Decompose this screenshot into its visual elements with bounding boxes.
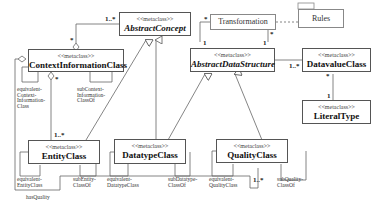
class-name: AbstractDataStructure	[191, 59, 274, 70]
class-literal-type[interactable]: <<metaclass>> LiteralType	[302, 100, 371, 124]
mult-ac-context-top: 1..*	[105, 15, 116, 23]
class-name: DatavalueClass	[303, 59, 370, 70]
label-equivalent-quality: equivalent- QualityClass	[209, 177, 237, 188]
stereotype-label: <<metaclass>>	[29, 144, 99, 151]
label-equivalent-context: equivalent- Context- Information- Class	[17, 87, 45, 109]
mult-transf-right-star: *	[270, 30, 274, 38]
class-name: EntityClass	[29, 151, 99, 162]
mult-ads-datavalue: 1..*	[289, 62, 300, 70]
class-name: QualityClass	[217, 150, 287, 161]
label-sub-entity: subEntity- ClassOf	[73, 177, 96, 188]
label-equivalent-entity: equivalent- EntityClass	[17, 177, 42, 188]
mult-ac-context-bottom: *	[70, 36, 74, 44]
class-entity[interactable]: <<metaclass>> EntityClass	[28, 140, 100, 164]
class-datavalue[interactable]: <<metaclass>> DatavalueClass	[302, 48, 371, 72]
class-transformation[interactable]: Transformation	[210, 14, 276, 30]
mult-transf-left-one: 1	[203, 39, 207, 47]
stereotype-label: <<metaclass>>	[115, 143, 185, 150]
class-name: LiteralType	[303, 111, 370, 122]
mult-literal-top: 1	[327, 92, 331, 100]
class-name: AbstractConcept	[120, 23, 190, 34]
mult-transf-right-one: 1	[263, 39, 267, 47]
class-abstract-data-structure[interactable]: <<metaclass>> AbstractDataStructure	[190, 48, 275, 72]
mult-context-entity-star: *	[55, 75, 59, 83]
class-datatype[interactable]: <<metaclass>> DatatypeClass	[114, 139, 186, 164]
label-has-quality: hasQuality	[26, 195, 50, 201]
stereotype-label: <<metaclass>>	[191, 52, 274, 59]
class-context-information[interactable]: <<metaclass>> ContextInformationClass	[28, 49, 124, 72]
label-equivalent-datatype: equivalent- DatatypeClass	[107, 177, 139, 188]
stereotype-label: <<metaclass>>	[303, 104, 370, 111]
mult-datavalue-bottom: *	[326, 72, 330, 80]
stereotype-label: <<metaclass>>	[217, 143, 287, 150]
label-sub-datatype: subDatatype- ClassOf	[168, 177, 197, 188]
class-name: ContextInformationClass	[29, 60, 123, 71]
stereotype-label: <<metaclass>>	[120, 16, 190, 23]
mult-transf-left-star: *	[204, 15, 208, 23]
package-name: Rules	[312, 14, 330, 23]
mult-entity-top: 1..*	[54, 131, 65, 139]
class-abstract-concept[interactable]: <<metaclass>> AbstractConcept	[119, 12, 191, 36]
class-name: Transformation	[218, 17, 267, 26]
stereotype-label: <<metaclass>>	[29, 53, 123, 60]
label-sub-context: subContext- Information- ClassOf	[77, 87, 105, 104]
class-name: DatatypeClass	[115, 150, 185, 161]
mult-quality-bottom: 1..*	[253, 176, 264, 184]
label-sub-quality: subQuality- ClassOf	[277, 177, 303, 188]
class-quality[interactable]: <<metaclass>> QualityClass	[216, 139, 288, 163]
stereotype-label: <<metaclass>>	[303, 52, 370, 59]
package-rules[interactable]: Rules	[298, 9, 344, 28]
